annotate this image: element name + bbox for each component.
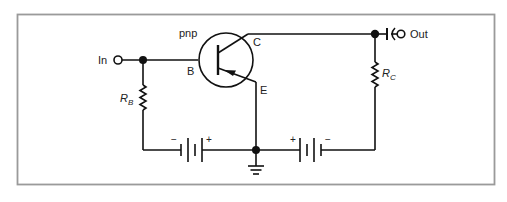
junction-ground (252, 146, 260, 154)
rb-resistor (140, 85, 146, 110)
base-battery-pos-sign: + (206, 134, 212, 145)
rb-label: RB (120, 92, 134, 107)
rc-label: RC (382, 67, 396, 82)
junction-input (139, 56, 147, 64)
transistor-body (199, 33, 253, 87)
output-label: Out (410, 28, 428, 40)
junction-collector (371, 30, 379, 38)
base-label: B (187, 65, 194, 77)
input-terminal (114, 56, 122, 64)
transistor-type-label: pnp (179, 27, 197, 39)
rc-resistor (372, 62, 378, 87)
transistor-collector-lead (218, 34, 248, 53)
base-battery (181, 138, 202, 162)
emitter-arrow-icon (224, 70, 236, 76)
output-terminal (397, 30, 405, 38)
base-battery-neg-sign: − (171, 134, 177, 145)
collector-battery (300, 138, 321, 162)
collector-battery-pos-sign: + (290, 134, 296, 145)
collector-label: C (253, 36, 261, 48)
emitter-label: E (260, 84, 267, 96)
circuit-diagram: In Out pnp B C E RB RC − + + − (0, 0, 507, 202)
input-label: In (98, 54, 107, 66)
collector-battery-neg-sign: − (325, 134, 331, 145)
